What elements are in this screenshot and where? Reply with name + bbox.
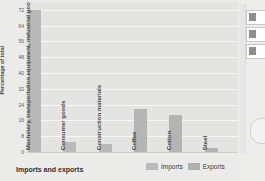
plot-area: Machinery, transportation equipment, ind… (26, 2, 238, 152)
thumbnail-icon (249, 47, 256, 55)
right-edge-panel (240, 0, 265, 181)
thumbnail-icon (249, 13, 256, 21)
bar-category-label: Cotton (166, 131, 172, 150)
y-axis-tick-label: 0 (2, 150, 24, 155)
legend-swatch-exports (188, 163, 200, 170)
legend-item-imports: Imports (146, 163, 183, 170)
bar-category-label: Coffee (131, 131, 137, 150)
y-axis-tick-label: 16 (2, 118, 24, 123)
y-axis-tick-label: 24 (2, 102, 24, 107)
legend-swatch-imports (146, 163, 158, 170)
x-axis-title: Imports and exports (16, 166, 83, 173)
bar-chart: 081624324048566472 Percentage of total M… (0, 0, 240, 181)
bar-category-label: Machinery, transportation equipment, ind… (26, 2, 31, 150)
chart-legend: Imports Exports (146, 163, 225, 170)
y-axis-tick-label: 8 (2, 134, 24, 139)
y-axis-tick-label: 48 (2, 55, 24, 60)
y-axis-tick-label: 56 (2, 39, 24, 44)
y-axis-title: Percentage of total (0, 46, 5, 95)
bar-category-label: Consumer goods (60, 101, 66, 150)
bar-series: Machinery, transportation equipment, ind… (26, 2, 238, 152)
x-axis-line (26, 152, 238, 153)
y-axis-tick-label: 72 (2, 7, 24, 12)
y-axis-tick-label: 64 (2, 23, 24, 28)
bar-category-label: Steel (201, 136, 207, 150)
panel-thumbnail-1[interactable] (246, 10, 265, 25)
bar-category-label: Construction materials (95, 85, 101, 150)
legend-item-exports: Exports (188, 163, 225, 170)
legend-label-imports: Imports (161, 163, 183, 170)
panel-thumbnail-3[interactable] (246, 44, 265, 59)
screenshot-root: 081624324048566472 Percentage of total M… (0, 0, 265, 181)
legend-label-exports: Exports (203, 163, 225, 170)
thumbnail-icon (249, 30, 256, 38)
panel-thumbnail-2[interactable] (246, 27, 265, 42)
y-axis-tick-label: 40 (2, 71, 24, 76)
y-axis-tick-label: 32 (2, 86, 24, 91)
panel-round-control[interactable] (250, 118, 265, 144)
